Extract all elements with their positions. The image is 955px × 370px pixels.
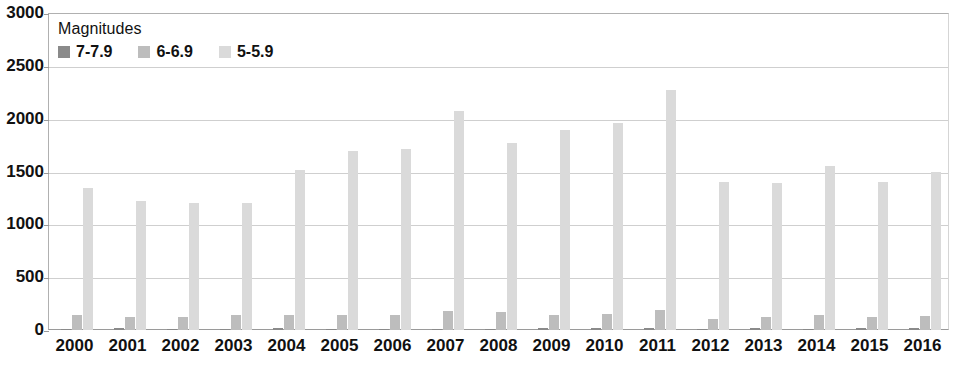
bar-2005-5-5.9 bbox=[348, 151, 358, 330]
legend-label-7-7.9: 7-7.9 bbox=[76, 43, 112, 61]
y-axis-label-0: 0 bbox=[0, 320, 44, 340]
bar-2003-6-6.9 bbox=[231, 315, 241, 330]
x-axis-label-2012: 2012 bbox=[692, 336, 730, 356]
bar-2002-7-7.9 bbox=[167, 329, 177, 330]
bar-2005-7-7.9 bbox=[326, 329, 336, 330]
bar-2006-7-7.9 bbox=[379, 329, 389, 330]
x-axis-label-2002: 2002 bbox=[162, 336, 200, 356]
bar-2002-5-5.9 bbox=[189, 203, 199, 330]
bar-2002-6-6.9 bbox=[178, 317, 188, 330]
bar-2010-5-5.9 bbox=[613, 123, 623, 330]
x-axis-label-2009: 2009 bbox=[533, 336, 571, 356]
bar-2000-6-6.9 bbox=[72, 315, 82, 330]
legend-item-6-6.9[interactable]: 6-6.9 bbox=[138, 43, 192, 61]
x-axis: 2000200120022003200420052006200720082009… bbox=[48, 336, 949, 366]
legend-swatch-icon-5-5.9 bbox=[219, 46, 231, 58]
bar-2016-5-5.9 bbox=[931, 172, 941, 330]
bar-2008-6-6.9 bbox=[496, 312, 506, 330]
x-axis-label-2000: 2000 bbox=[56, 336, 94, 356]
bar-2011-7-7.9 bbox=[644, 328, 654, 330]
bar-2014-7-7.9 bbox=[803, 329, 813, 330]
y-axis-label-1500: 1500 bbox=[0, 162, 44, 182]
bar-2007-6-6.9 bbox=[443, 311, 453, 330]
x-axis-label-2008: 2008 bbox=[480, 336, 518, 356]
bar-2008-5-5.9 bbox=[507, 143, 517, 330]
x-axis-label-2005: 2005 bbox=[321, 336, 359, 356]
legend-items: 7-7.96-6.95-5.9 bbox=[58, 43, 299, 61]
bar-2009-6-6.9 bbox=[549, 315, 559, 330]
bar-2016-7-7.9 bbox=[909, 328, 919, 330]
bar-2015-5-5.9 bbox=[878, 182, 888, 330]
bar-2006-6-6.9 bbox=[390, 315, 400, 330]
y-axis-label-2500: 2500 bbox=[0, 56, 44, 76]
bar-2012-5-5.9 bbox=[719, 182, 729, 330]
bar-2001-6-6.9 bbox=[125, 317, 135, 330]
bar-2010-6-6.9 bbox=[602, 314, 612, 330]
y-axis: 050010001500200025003000 bbox=[0, 0, 44, 370]
y-axis-label-3000: 3000 bbox=[0, 3, 44, 23]
legend-label-5-5.9: 5-5.9 bbox=[237, 43, 273, 61]
legend-item-5-5.9[interactable]: 5-5.9 bbox=[219, 43, 273, 61]
bar-2011-6-6.9 bbox=[655, 310, 665, 330]
legend-swatch-icon-7-7.9 bbox=[58, 46, 70, 58]
x-axis-label-2015: 2015 bbox=[851, 336, 889, 356]
y-axis-label-2000: 2000 bbox=[0, 109, 44, 129]
y-axis-label-1000: 1000 bbox=[0, 214, 44, 234]
bar-2012-7-7.9 bbox=[697, 329, 707, 330]
x-axis-label-2011: 2011 bbox=[639, 336, 676, 356]
earthquake-magnitude-bar-chart: 050010001500200025003000 200020012002200… bbox=[0, 0, 955, 370]
x-axis-label-2004: 2004 bbox=[268, 336, 306, 356]
bar-2015-6-6.9 bbox=[867, 317, 877, 330]
bar-2012-6-6.9 bbox=[708, 319, 718, 330]
x-axis-label-2013: 2013 bbox=[745, 336, 783, 356]
bar-2011-5-5.9 bbox=[666, 90, 676, 330]
x-axis-label-2014: 2014 bbox=[798, 336, 836, 356]
bar-2000-5-5.9 bbox=[83, 188, 93, 330]
x-axis-label-2001: 2001 bbox=[109, 336, 147, 356]
y-axis-label-500: 500 bbox=[0, 267, 44, 287]
x-axis-label-2006: 2006 bbox=[374, 336, 412, 356]
bar-2010-7-7.9 bbox=[591, 328, 601, 330]
x-axis-label-2003: 2003 bbox=[215, 336, 253, 356]
bar-2015-7-7.9 bbox=[856, 328, 866, 330]
y-tick-mark-0 bbox=[44, 331, 49, 332]
bar-2008-7-7.9 bbox=[485, 329, 495, 330]
bar-2014-6-6.9 bbox=[814, 315, 824, 330]
x-axis-label-2007: 2007 bbox=[427, 336, 465, 356]
legend-item-7-7.9[interactable]: 7-7.9 bbox=[58, 43, 112, 61]
bar-2004-7-7.9 bbox=[273, 328, 283, 330]
bar-2005-6-6.9 bbox=[337, 315, 347, 330]
bar-2004-5-5.9 bbox=[295, 170, 305, 330]
bar-2016-6-6.9 bbox=[920, 316, 930, 330]
legend-swatch-icon-6-6.9 bbox=[138, 46, 150, 58]
bar-2006-5-5.9 bbox=[401, 149, 411, 330]
bar-2013-6-6.9 bbox=[761, 317, 771, 330]
bar-2013-5-5.9 bbox=[772, 183, 782, 330]
bar-2014-5-5.9 bbox=[825, 166, 835, 330]
legend-label-6-6.9: 6-6.9 bbox=[156, 43, 192, 61]
bar-2009-5-5.9 bbox=[560, 130, 570, 330]
bar-2007-7-7.9 bbox=[432, 329, 442, 330]
x-axis-label-2016: 2016 bbox=[904, 336, 942, 356]
legend-title: Magnitudes bbox=[58, 20, 299, 38]
bar-2007-5-5.9 bbox=[454, 111, 464, 330]
bar-2009-7-7.9 bbox=[538, 328, 548, 330]
bar-2001-5-5.9 bbox=[136, 201, 146, 330]
bar-2003-5-5.9 bbox=[242, 203, 252, 330]
bar-2001-7-7.9 bbox=[114, 328, 124, 330]
bar-2004-6-6.9 bbox=[284, 315, 294, 330]
legend: Magnitudes 7-7.96-6.95-5.9 bbox=[58, 20, 299, 61]
x-axis-label-2010: 2010 bbox=[586, 336, 624, 356]
bar-2003-7-7.9 bbox=[220, 329, 230, 330]
bar-2000-7-7.9 bbox=[61, 329, 71, 330]
bar-2013-7-7.9 bbox=[750, 328, 760, 330]
